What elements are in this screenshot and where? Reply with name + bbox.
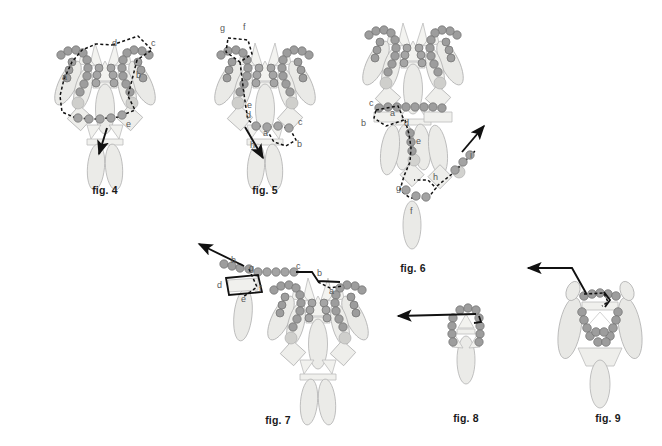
label-e: e bbox=[241, 294, 246, 304]
label-b: b bbox=[297, 139, 302, 149]
label-a: a bbox=[329, 286, 334, 296]
label-b: b bbox=[136, 70, 141, 80]
label-c: c bbox=[369, 98, 374, 108]
label-i: i bbox=[470, 150, 472, 160]
figure-fig6: c a b d e h g f i bbox=[357, 23, 484, 249]
caption-fig5: fig. 5 bbox=[252, 184, 278, 196]
figure-fig9 bbox=[528, 268, 646, 408]
figure-fig5: g f e d a c b h bbox=[209, 22, 320, 191]
label-f: f bbox=[243, 22, 246, 32]
specimen-body-right bbox=[262, 278, 373, 426]
figure-fig4: a b c d e bbox=[49, 36, 160, 191]
label-a: a bbox=[62, 72, 67, 82]
label-c: c bbox=[296, 261, 301, 271]
figure-fig7: h g c b d f e a bbox=[199, 244, 374, 426]
label-g: g bbox=[220, 23, 225, 33]
caption-fig6: fig. 6 bbox=[400, 262, 426, 274]
specimen-body bbox=[49, 43, 160, 191]
label-d: d bbox=[404, 118, 409, 128]
specimen-body bbox=[448, 304, 484, 384]
figures-canvas: a b c d e g f e d a c b h bbox=[0, 0, 662, 446]
label-h: h bbox=[250, 140, 255, 150]
specimen-body bbox=[554, 279, 646, 408]
label-a: a bbox=[263, 128, 268, 138]
label-g: g bbox=[396, 183, 401, 193]
caption-fig7: fig. 7 bbox=[265, 414, 291, 426]
specimen-body bbox=[209, 43, 320, 191]
label-h: h bbox=[433, 172, 438, 182]
caption-fig9: fig. 9 bbox=[595, 412, 621, 424]
label-e: e bbox=[416, 136, 421, 146]
label-d: d bbox=[112, 38, 117, 48]
label-d: d bbox=[246, 110, 251, 120]
caption-fig4: fig. 4 bbox=[92, 184, 118, 196]
label-b: b bbox=[361, 118, 366, 128]
label-e: e bbox=[126, 119, 131, 129]
label-c: c bbox=[151, 38, 156, 48]
caption-fig8: fig. 8 bbox=[453, 412, 479, 424]
label-g: g bbox=[249, 263, 254, 273]
label-d: d bbox=[217, 280, 222, 290]
figure-plate: a b c d e g f e d a c b h bbox=[0, 0, 662, 446]
direction-arrow bbox=[398, 314, 476, 316]
label-h: h bbox=[231, 255, 236, 265]
direction-arrow bbox=[462, 126, 484, 152]
bead-bridge bbox=[254, 268, 298, 276]
label-c: c bbox=[298, 117, 303, 127]
label-a: a bbox=[390, 108, 395, 118]
label-e: e bbox=[247, 100, 252, 110]
label-b: b bbox=[317, 268, 322, 278]
figure-fig8 bbox=[398, 304, 484, 384]
